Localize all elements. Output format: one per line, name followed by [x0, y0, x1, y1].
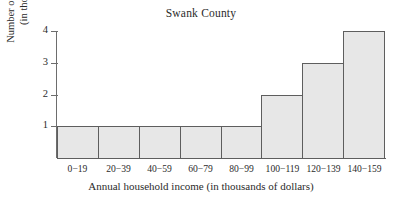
bar [302, 63, 344, 158]
bar-series [57, 31, 385, 158]
x-axis-tick-label: 60−79 [180, 162, 221, 176]
bar [57, 126, 99, 158]
bar [139, 126, 181, 158]
x-axis-tick-label: 120−139 [303, 162, 344, 176]
x-axis-tick-label: 80−99 [221, 162, 262, 176]
x-axis-line [57, 158, 386, 159]
chart-title: Swank County [0, 7, 402, 19]
x-axis-tick-label: 100−119 [262, 162, 303, 176]
x-axis-tick-label: 0−19 [57, 162, 98, 176]
bar [98, 126, 140, 158]
x-axis-tick-label: 40−59 [139, 162, 180, 176]
y-axis-tick-label: 2 [43, 89, 48, 100]
x-axis-tick-label: 20−39 [98, 162, 139, 176]
bar [343, 31, 385, 158]
y-axis-tick-label: 3 [43, 57, 48, 68]
y-axis-tick-label: 1 [43, 120, 48, 131]
bar [261, 95, 303, 159]
y-axis-tick-label: 4 [43, 25, 48, 36]
bar [180, 126, 222, 158]
x-axis-title: Annual household income (in thousands of… [0, 180, 402, 192]
x-axis-tick-labels: 0−1920−3940−5960−7980−99100−119120−13914… [57, 162, 385, 176]
x-axis-tick-label: 140−159 [344, 162, 385, 176]
histogram-chart: Swank County Number of households (in th… [0, 0, 402, 208]
bar [221, 126, 263, 158]
